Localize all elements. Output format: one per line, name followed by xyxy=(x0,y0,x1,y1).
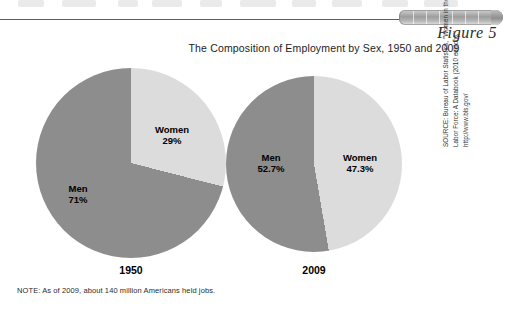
header-divider xyxy=(0,19,404,20)
pie-2009-women-value: 47.3% xyxy=(347,163,374,174)
figure-source: SOURCE: Bureau of Labor Statistics, "Wom… xyxy=(441,0,470,147)
pie-2009-women-name: Women xyxy=(343,152,377,163)
pie-2009-year: 2009 xyxy=(284,264,344,276)
pie-1950-slices xyxy=(36,68,226,258)
figure-note: NOTE: As of 2009, about 140 million Amer… xyxy=(17,286,215,295)
pie-1950-men-label: Men 71% xyxy=(56,183,100,205)
pie-2009-women-label: Women 47.3% xyxy=(330,152,390,174)
pie-2009-men-name: Men xyxy=(262,152,281,163)
pie-1950-women-name: Women xyxy=(155,124,189,135)
pie-2009-men-value: 52.7% xyxy=(258,163,285,174)
pie-1950-men-name: Men xyxy=(69,183,88,194)
pie-1950-men-value: 71% xyxy=(68,194,87,205)
pie-1950-women-label: Women 29% xyxy=(144,124,200,146)
pie-2009-men-label: Men 52.7% xyxy=(243,152,299,174)
figure-container: Figure 5 The Composition of Employment b… xyxy=(0,0,509,309)
pie-1950-year: 1950 xyxy=(101,264,161,276)
pie-1950-women-value: 29% xyxy=(162,135,181,146)
